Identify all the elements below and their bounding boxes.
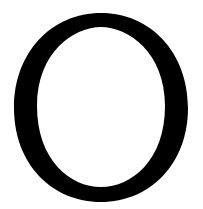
letter-o-glyph bbox=[0, 0, 203, 209]
letter-o-canvas: O bbox=[0, 0, 203, 209]
